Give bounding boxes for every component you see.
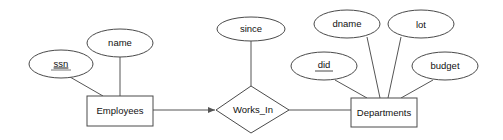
edge-dname-departments <box>367 37 380 98</box>
edge-ssn-employees <box>70 77 103 96</box>
entity-departments: Departments <box>351 98 417 127</box>
attribute-name-label: name <box>108 37 132 48</box>
attribute-since-label: since <box>240 23 262 34</box>
er-diagram: ssn name since did dname lot budget Empl… <box>0 0 503 140</box>
edge-budget-departments <box>401 80 433 98</box>
edge-did-departments <box>335 80 367 98</box>
attribute-ssn: ssn <box>29 50 93 78</box>
attribute-budget: budget <box>412 52 478 80</box>
attribute-lot-label: lot <box>416 19 426 30</box>
attribute-did-label: did <box>318 59 331 70</box>
relationship-works-in-label: Works_In <box>233 104 273 115</box>
entity-employees-label: Employees <box>97 105 144 116</box>
edge-lot-departments <box>388 37 401 98</box>
attribute-name: name <box>87 29 153 57</box>
attribute-dname-label: dname <box>332 18 361 29</box>
attribute-since: since <box>217 17 285 41</box>
attribute-lot: lot <box>388 10 454 38</box>
entity-departments-label: Departments <box>357 107 412 118</box>
attribute-ssn-label: ssn <box>54 58 69 69</box>
entity-employees: Employees <box>87 96 153 126</box>
attribute-dname: dname <box>314 10 380 38</box>
relationship-works-in: Works_In <box>216 86 289 133</box>
attribute-did: did <box>291 52 357 80</box>
attribute-budget-label: budget <box>430 60 459 71</box>
